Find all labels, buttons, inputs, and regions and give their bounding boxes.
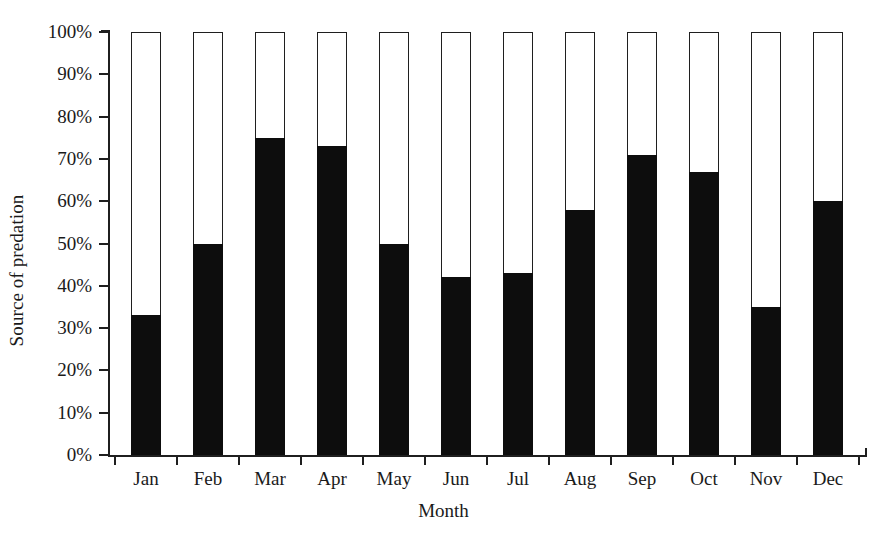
x-tick — [734, 455, 736, 465]
bar-stack — [627, 32, 657, 455]
y-tick-label: 30% — [22, 318, 92, 337]
bar-stack — [317, 32, 347, 455]
x-tick — [300, 455, 302, 465]
bar-stack — [751, 32, 781, 455]
bar-stack — [379, 32, 409, 455]
bar-segment-filled — [317, 146, 347, 455]
y-tick — [99, 412, 108, 414]
x-tick — [176, 455, 178, 465]
bar-stack — [441, 32, 471, 455]
bar-segment-filled — [813, 201, 843, 455]
y-tick-label: 80% — [22, 107, 92, 126]
x-tick — [610, 455, 612, 465]
x-tick-label: Dec — [788, 468, 868, 490]
bar-segment-filled — [689, 172, 719, 455]
y-tick-label: 0% — [22, 445, 92, 464]
y-tick-label: 10% — [22, 403, 92, 422]
bar-segment-filled — [193, 244, 223, 456]
y-tick-label: 40% — [22, 276, 92, 295]
y-tick — [99, 243, 108, 245]
x-tick — [548, 455, 550, 465]
x-tick — [362, 455, 364, 465]
x-tick — [858, 455, 860, 465]
bar-segment-filled — [503, 273, 533, 455]
bar-stack — [689, 32, 719, 455]
y-tick — [99, 158, 108, 160]
bar-segment-filled — [255, 138, 285, 455]
chart-figure: Source of predation 0%10%20%30%40%50%60%… — [0, 0, 887, 541]
y-tick-label: 70% — [22, 149, 92, 168]
y-tick-label: 50% — [22, 234, 92, 253]
bar-segment-filled — [565, 210, 595, 455]
y-tick-label: 60% — [22, 191, 92, 210]
y-tick — [99, 369, 108, 371]
x-tick — [486, 455, 488, 465]
y-tick-label: 90% — [22, 64, 92, 83]
bar-segment-filled — [379, 244, 409, 456]
bar-segment-filled — [627, 155, 657, 455]
y-tick — [99, 31, 108, 33]
y-tick — [99, 285, 108, 287]
y-tick — [99, 454, 108, 456]
bar-stack — [565, 32, 595, 455]
bar-stack — [193, 32, 223, 455]
y-tick-label: 20% — [22, 360, 92, 379]
x-tick — [424, 455, 426, 465]
bar-stack — [813, 32, 843, 455]
bar-stack — [255, 32, 285, 455]
y-tick — [99, 73, 108, 75]
x-axis-title: Month — [0, 500, 887, 522]
bar-segment-filled — [441, 277, 471, 455]
bar-stack — [503, 32, 533, 455]
bar-segment-filled — [751, 307, 781, 455]
y-tick — [99, 116, 108, 118]
bar-stack — [131, 32, 161, 455]
plot-area — [108, 32, 866, 455]
x-tick — [114, 455, 116, 465]
bar-segment-filled — [131, 315, 161, 455]
x-tick — [672, 455, 674, 465]
y-tick-label: 100% — [22, 22, 92, 41]
x-tick — [238, 455, 240, 465]
x-tick — [796, 455, 798, 465]
y-tick — [99, 327, 108, 329]
y-tick — [99, 200, 108, 202]
